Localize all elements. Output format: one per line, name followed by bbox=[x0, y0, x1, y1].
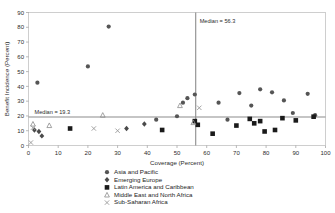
legend-marker-square-icon bbox=[105, 185, 110, 190]
scatter-chart: 0102030405060708090100 01020304050607080… bbox=[0, 0, 335, 213]
x-tick-label: 20 bbox=[85, 150, 92, 156]
median-y-label: Median = 19.3 bbox=[35, 109, 71, 115]
y-tick-label: 90 bbox=[17, 10, 24, 16]
legend-item-label: Middle East and North Africa bbox=[114, 191, 193, 198]
data-point bbox=[280, 116, 285, 121]
y-tick-label: 50 bbox=[17, 69, 24, 75]
legend-item[interactable]: Emerging Europe bbox=[105, 176, 163, 183]
x-tick-label: 70 bbox=[233, 150, 240, 156]
data-point bbox=[270, 90, 274, 94]
data-point bbox=[237, 91, 241, 95]
data-point bbox=[181, 101, 185, 105]
data-point bbox=[160, 128, 165, 133]
legend-item[interactable]: Middle East and North Africa bbox=[105, 191, 193, 198]
data-point bbox=[107, 24, 111, 28]
data-point bbox=[216, 101, 220, 105]
y-tick-label: 60 bbox=[17, 54, 24, 60]
x-tick-label: 60 bbox=[203, 150, 210, 156]
x-tick-label: 50 bbox=[174, 150, 181, 156]
y-axis-title: Benefit Incidence (Percent) bbox=[3, 42, 10, 117]
data-point bbox=[225, 118, 229, 122]
data-point bbox=[252, 121, 257, 126]
data-point bbox=[306, 92, 310, 96]
y-tick-label: 80 bbox=[17, 24, 24, 30]
y-tick-label: 10 bbox=[17, 128, 24, 134]
x-tick-label: 10 bbox=[55, 150, 62, 156]
data-point bbox=[258, 119, 263, 124]
data-point bbox=[273, 128, 278, 133]
x-tick-label: 40 bbox=[144, 150, 151, 156]
legend-item-label: Emerging Europe bbox=[114, 176, 163, 183]
x-axis-title: Coverage (Percent) bbox=[150, 159, 204, 166]
legend-item[interactable]: Latin America and Caribbean bbox=[105, 183, 195, 190]
x-tick-label: 90 bbox=[292, 150, 299, 156]
data-point bbox=[68, 126, 73, 131]
data-point bbox=[311, 114, 316, 119]
legend-marker-circle-icon bbox=[105, 170, 109, 174]
data-point bbox=[86, 64, 90, 68]
y-tick-label: 20 bbox=[17, 113, 24, 119]
x-tick-label: 100 bbox=[320, 150, 331, 156]
data-point bbox=[154, 118, 158, 122]
legend-item-label: Sub-Saharan Africa bbox=[114, 198, 168, 205]
legend-item-label: Latin America and Caribbean bbox=[114, 183, 194, 190]
data-point bbox=[294, 118, 299, 123]
data-point bbox=[35, 81, 39, 85]
data-point bbox=[282, 98, 286, 102]
data-point bbox=[291, 111, 295, 115]
data-point bbox=[247, 117, 252, 122]
data-point bbox=[234, 123, 239, 128]
x-tick-label: 80 bbox=[263, 150, 270, 156]
data-point bbox=[249, 104, 253, 108]
median-x-label: Median = 56.3 bbox=[200, 18, 236, 24]
data-point bbox=[175, 114, 179, 118]
x-tick-label: 30 bbox=[114, 150, 121, 156]
data-point bbox=[185, 96, 189, 100]
data-point bbox=[210, 131, 215, 136]
y-tick-label: 70 bbox=[17, 39, 24, 45]
data-point bbox=[258, 87, 262, 91]
y-tick-label: 30 bbox=[17, 98, 24, 104]
data-point bbox=[193, 92, 197, 96]
legend-item-label: Asia and Pacific bbox=[114, 168, 158, 175]
legend-item[interactable]: Sub-Saharan Africa bbox=[105, 198, 168, 205]
y-tick-label: 40 bbox=[17, 84, 24, 90]
data-point bbox=[262, 129, 267, 134]
chart-background bbox=[0, 0, 335, 213]
